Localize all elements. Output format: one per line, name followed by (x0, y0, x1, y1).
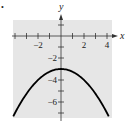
svg-text:−2: −2 (33, 40, 43, 50)
y-axis-label: y (58, 1, 64, 12)
svg-text:4: 4 (105, 40, 110, 50)
svg-text:−4: −4 (47, 75, 57, 85)
svg-text:−6: −6 (47, 97, 57, 107)
svg-text:−2: −2 (47, 53, 57, 63)
svg-text:2: 2 (82, 40, 87, 50)
x-axis-label: x (119, 30, 125, 41)
x-axis-arrow-icon (112, 34, 118, 38)
parabola-graph: x y −224−2−4−6 (0, 0, 134, 127)
y-axis-arrow-icon (59, 14, 63, 20)
